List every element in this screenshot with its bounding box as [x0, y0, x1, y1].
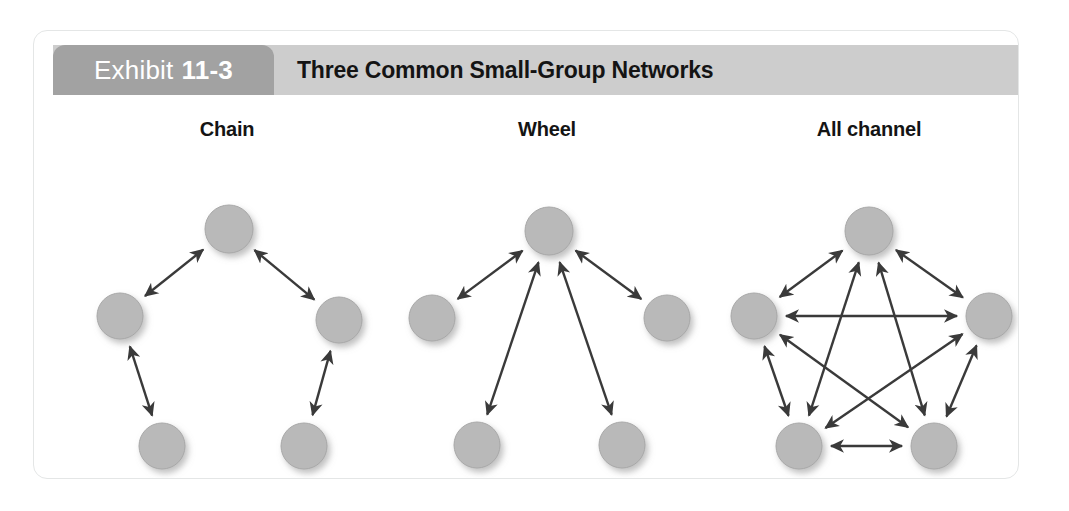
network-node-wheel-left — [409, 295, 455, 341]
exhibit-header: Exhibit11-3 Three Common Small-Group Net… — [34, 31, 1019, 95]
exhibit-tab-number: 11-3 — [182, 55, 233, 86]
network-edge-wheel-hub-to-bottom-left — [487, 262, 538, 414]
network-node-chain-bottom-right — [281, 423, 327, 469]
exhibit-tab-prefix: Exhibit — [94, 55, 173, 86]
network-edge-wheel-hub-to-left — [458, 251, 523, 299]
network-node-allchannel-bottom-right — [911, 423, 957, 469]
network-node-wheel-right — [644, 295, 690, 341]
network-node-allchannel-bottom-left — [776, 423, 822, 469]
network-node-allchannel-right — [966, 293, 1012, 339]
network-node-chain-left — [97, 293, 143, 339]
network-nodes-layer — [97, 205, 1012, 469]
exhibit-title: Three Common Small-Group Networks — [297, 45, 713, 95]
network-edge-wheel-hub-to-bottom-right — [560, 262, 612, 414]
network-edges-layer — [130, 250, 977, 446]
exhibit-card: Exhibit11-3 Three Common Small-Group Net… — [33, 30, 1019, 479]
exhibit-number-tab: Exhibit11-3 — [53, 45, 274, 95]
network-node-chain-top — [205, 205, 253, 253]
network-edge-allchannel-left-to-bottom-right — [780, 335, 908, 428]
networks-svg — [34, 95, 1019, 479]
exhibit-number-label: Exhibit11-3 — [53, 45, 274, 95]
network-node-allchannel-left — [731, 293, 777, 339]
network-edge-chain-left-to-top — [145, 250, 203, 296]
network-node-allchannel-top — [845, 207, 893, 255]
network-edge-allchannel-top-to-left — [780, 251, 843, 297]
network-node-chain-right — [316, 297, 362, 343]
networks-diagram-area: Chain Wheel All channel — [34, 95, 1019, 479]
network-node-wheel-bottom-left — [454, 422, 500, 468]
network-edge-chain-bottom-left-to-left — [130, 346, 152, 415]
network-edge-chain-top-to-right — [254, 250, 314, 300]
network-node-chain-bottom-left — [139, 423, 185, 469]
network-edge-allchannel-right-to-bottom-right — [946, 345, 976, 416]
network-edge-allchannel-top-to-right — [896, 250, 963, 297]
network-node-wheel-hub — [525, 207, 573, 255]
network-edge-allchannel-top-to-bottom-right — [879, 263, 925, 416]
network-edge-allchannel-top-to-bottom-left — [809, 262, 859, 415]
network-edge-allchannel-left-to-bottom-left — [764, 346, 788, 416]
network-edge-wheel-hub-to-right — [576, 251, 642, 299]
network-edge-chain-right-to-bottom-right — [313, 351, 331, 415]
network-node-wheel-bottom-right — [599, 422, 645, 468]
